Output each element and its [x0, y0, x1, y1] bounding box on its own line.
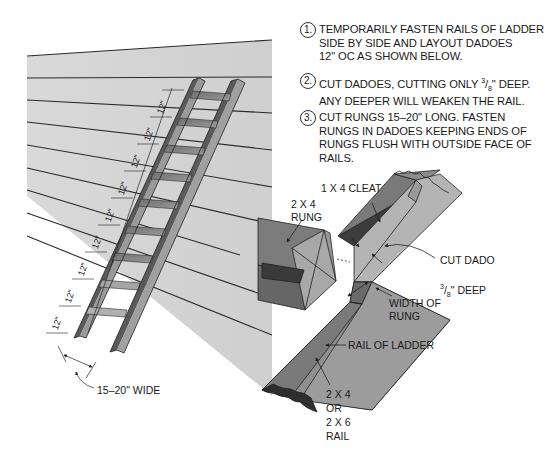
label-rung: 2 X 4 RUNG: [291, 198, 322, 224]
step-text: CUT DADOES, CUTTING ONLY 3/8" DEEP. ANY …: [319, 74, 548, 109]
label-rail-size: 2 X 4 OR 2 X 6 RAIL: [326, 387, 351, 443]
step-text: CUT RUNGS 15–20" LONG. FASTEN RUNGS IN D…: [319, 111, 548, 165]
label-rail-of-ladder: RAIL OF LADDER: [348, 339, 434, 352]
ladder-construction-illustration: [0, 0, 548, 456]
label-width-of-rung: WIDTH OF RUNG: [389, 297, 441, 323]
step-number: 1.: [300, 22, 316, 38]
label-ladder-width: 15–20" WIDE: [97, 384, 160, 397]
label-cleat: 1 X 4 CLEAT: [321, 182, 382, 195]
label-cut-dado: CUT DADO 3/8" DEEP: [440, 241, 495, 301]
step-number: 2.: [300, 73, 316, 89]
width-dimension: [58, 346, 96, 388]
joint-detail: [258, 170, 462, 412]
step-text: TEMPORARILY FASTEN RAILS OF LADDER SIDE …: [319, 23, 548, 64]
step-number: 3.: [300, 110, 316, 126]
